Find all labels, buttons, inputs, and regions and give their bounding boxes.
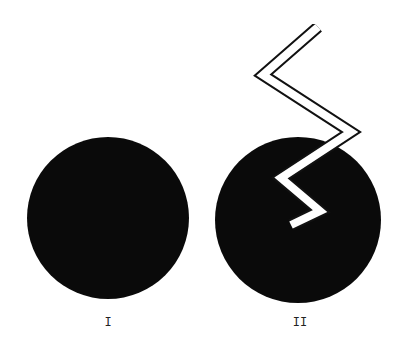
- figure-i-label: I: [104, 316, 111, 330]
- figure-ii-label: II: [293, 316, 307, 330]
- figure-i-disk: [27, 137, 189, 299]
- diagram-canvas: [0, 0, 401, 356]
